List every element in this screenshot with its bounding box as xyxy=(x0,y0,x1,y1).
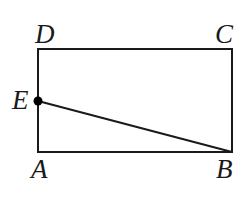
point-marker-e xyxy=(34,97,43,106)
vertex-label-d: D xyxy=(35,21,55,48)
segment-eb xyxy=(38,101,232,152)
vertex-label-a: A xyxy=(31,156,48,183)
vertex-label-b: B xyxy=(216,156,233,183)
vertex-label-e: E xyxy=(12,87,29,114)
geometry-diagram: D C E A B xyxy=(0,0,251,198)
rectangle-abcd xyxy=(38,49,232,152)
vertex-label-c: C xyxy=(215,21,233,48)
